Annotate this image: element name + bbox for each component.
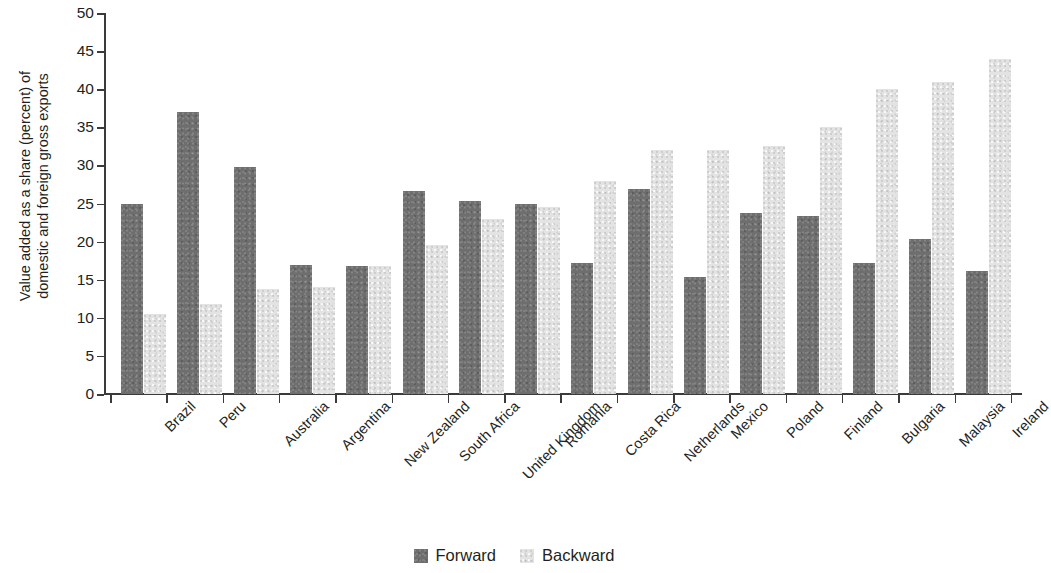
y-axis-tick-label: 50 bbox=[58, 4, 94, 22]
bar-forward bbox=[740, 213, 762, 394]
legend-swatch-icon bbox=[520, 549, 534, 563]
bar-group bbox=[853, 13, 898, 394]
bar-group bbox=[177, 13, 222, 394]
bar-forward bbox=[966, 271, 988, 394]
bar-group bbox=[628, 13, 673, 394]
x-axis-category-label: Malaysia bbox=[956, 398, 1008, 450]
bar-group bbox=[121, 13, 166, 394]
bar-group bbox=[684, 13, 729, 394]
bar-forward bbox=[459, 201, 481, 394]
bar-group bbox=[909, 13, 954, 394]
bar-backward bbox=[876, 89, 898, 394]
bar-forward bbox=[290, 265, 312, 394]
bar-backward bbox=[763, 146, 785, 394]
legend-label: Forward bbox=[436, 546, 497, 565]
x-axis-category-label: Australia bbox=[280, 398, 331, 449]
bar-group bbox=[571, 13, 616, 394]
bar-forward bbox=[177, 112, 199, 394]
legend-item: Backward bbox=[520, 546, 614, 565]
bar-forward bbox=[346, 266, 368, 394]
legend-item: Forward bbox=[414, 546, 497, 565]
x-axis-labels: BrazilPeruAustraliaArgentinaNew ZealandS… bbox=[104, 398, 1022, 508]
bar-backward bbox=[426, 245, 448, 394]
y-axis-tick-label: 40 bbox=[58, 80, 94, 98]
bar-backward bbox=[200, 304, 222, 394]
x-axis-category-label: Poland bbox=[784, 398, 827, 441]
y-axis-tick-label: 25 bbox=[58, 195, 94, 213]
y-axis-tick bbox=[97, 204, 104, 206]
y-axis-tick bbox=[97, 394, 104, 396]
x-axis-category-label: Peru bbox=[216, 398, 249, 431]
bar-group bbox=[459, 13, 504, 394]
y-axis-tick-label: 15 bbox=[58, 271, 94, 289]
x-axis-category-label: Finland bbox=[841, 398, 886, 443]
y-axis-tick-label: 5 bbox=[58, 347, 94, 365]
legend-swatch-icon bbox=[414, 549, 428, 563]
y-axis-tick bbox=[97, 242, 104, 244]
y-axis-tick-label: 45 bbox=[58, 42, 94, 60]
bar-group bbox=[966, 13, 1011, 394]
y-axis-tick-label: 30 bbox=[58, 156, 94, 174]
bar-backward bbox=[313, 287, 335, 394]
bar-group bbox=[234, 13, 279, 394]
bar-group bbox=[515, 13, 560, 394]
x-axis-category-label: Bulgaria bbox=[898, 398, 947, 447]
bar-backward bbox=[144, 314, 166, 394]
chart-legend: ForwardBackward bbox=[0, 546, 1028, 565]
bar-backward bbox=[594, 181, 616, 394]
y-axis-tick-label: 0 bbox=[58, 385, 94, 403]
bar-forward bbox=[403, 191, 425, 394]
bar-forward bbox=[515, 204, 537, 395]
bar-forward bbox=[797, 216, 819, 394]
y-axis-tick bbox=[97, 165, 104, 167]
bar-group bbox=[346, 13, 391, 394]
bar-backward bbox=[538, 207, 560, 394]
bar-forward bbox=[234, 167, 256, 394]
y-axis-tick bbox=[97, 318, 104, 320]
y-axis-tick bbox=[97, 13, 104, 15]
y-axis-title: Value added as a share (percent) of dome… bbox=[16, 2, 52, 370]
bar-forward bbox=[628, 189, 650, 394]
bar-backward bbox=[989, 59, 1011, 394]
y-axis-tick bbox=[97, 356, 104, 358]
bar-group bbox=[797, 13, 842, 394]
y-axis-tick-label: 35 bbox=[58, 118, 94, 136]
bar-forward bbox=[909, 239, 931, 394]
plot-area: 05101520253035404550 bbox=[104, 13, 1022, 394]
bar-forward bbox=[121, 204, 143, 395]
y-axis-tick bbox=[97, 51, 104, 53]
bar-forward bbox=[684, 277, 706, 394]
bar-backward bbox=[707, 150, 729, 394]
legend-label: Backward bbox=[542, 546, 614, 565]
bar-group bbox=[403, 13, 448, 394]
bar-backward bbox=[651, 150, 673, 394]
bar-backward bbox=[369, 266, 391, 394]
bar-forward bbox=[853, 263, 875, 394]
bar-group bbox=[740, 13, 785, 394]
x-axis-category-label: Brazil bbox=[162, 398, 199, 435]
y-axis-tick bbox=[97, 127, 104, 129]
bar-backward bbox=[482, 219, 504, 394]
x-axis-category-label: Costa Rica bbox=[622, 398, 683, 459]
bar-backward bbox=[932, 82, 954, 394]
bar-backward bbox=[257, 289, 279, 394]
bar-forward bbox=[571, 263, 593, 394]
y-axis-tick-label: 10 bbox=[58, 309, 94, 327]
y-axis-line bbox=[104, 13, 106, 394]
y-axis-tick bbox=[97, 280, 104, 282]
bar-backward bbox=[820, 127, 842, 394]
y-axis-tick-label: 20 bbox=[58, 233, 94, 251]
x-axis-category-label: Ireland bbox=[1008, 398, 1051, 441]
y-axis-tick bbox=[97, 89, 104, 91]
x-axis-category-label: Argentina bbox=[338, 398, 393, 453]
bar-group bbox=[290, 13, 335, 394]
y-axis-title-container: Value added as a share (percent) of dome… bbox=[0, 0, 64, 400]
